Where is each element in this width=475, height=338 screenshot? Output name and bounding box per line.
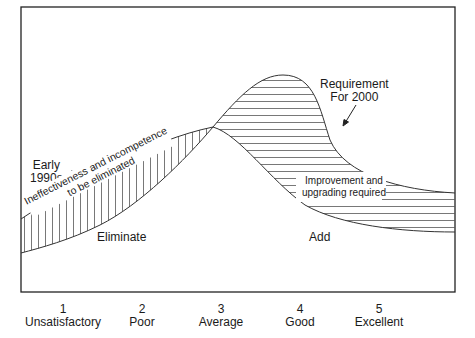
improvement-label: Improvement and upgrading required (302, 175, 386, 199)
diagram-canvas (0, 0, 475, 338)
add-label: Add (309, 231, 330, 244)
axis-item-5: 5 Excellent (329, 303, 429, 329)
axis-label: Excellent (329, 316, 429, 329)
requirement-arrow-icon (343, 105, 356, 126)
improvement-line1: Improvement and (302, 175, 386, 187)
requirement-label: Requirement For 2000 (320, 78, 389, 104)
requirement-label-line2: For 2000 (320, 91, 389, 104)
improvement-line2: upgrading required (302, 187, 386, 199)
plot-frame (21, 7, 455, 292)
eliminate-label: Eliminate (97, 231, 146, 244)
